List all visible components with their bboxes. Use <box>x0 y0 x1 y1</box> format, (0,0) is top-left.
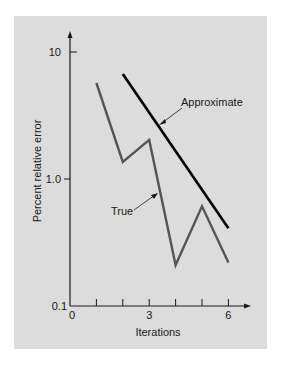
x-axis-label: Iterations <box>135 326 181 338</box>
y-axis-label: Percent relative error <box>31 119 43 222</box>
y-tick-label: 1.0 <box>46 173 61 185</box>
ticks: 036101.00.1 <box>46 46 232 321</box>
y-axis-arrow-icon <box>68 31 73 38</box>
y-tick-label: 0.1 <box>52 300 67 312</box>
series-line-true <box>96 83 228 265</box>
x-tick-label: 6 <box>225 309 231 321</box>
x-axis-arrow-icon <box>244 304 251 309</box>
chart: 036101.00.1 ApproximateTrue Iterations P… <box>0 0 281 365</box>
axes <box>68 31 252 309</box>
x-tick-label: 0 <box>69 309 75 321</box>
annotation-approximate-label: Approximate <box>181 96 243 108</box>
annotation-true-arrow <box>134 195 155 210</box>
annotation-true-label: True <box>111 205 133 217</box>
annotation-approximate-arrowhead-icon <box>159 119 166 125</box>
x-tick-label: 3 <box>146 309 152 321</box>
y-tick-label: 10 <box>49 46 61 58</box>
annotation-true-arrowhead-icon <box>151 193 158 199</box>
